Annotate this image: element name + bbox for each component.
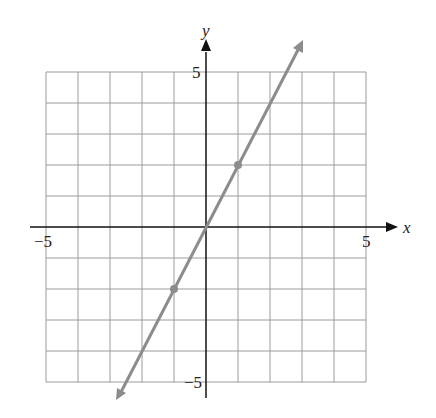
x-axis-arrow-icon [386,222,398,232]
point-neg1-neg2 [170,285,178,293]
graph-line [116,40,303,400]
coordinate-plane [0,0,436,418]
x-max-tick-label: 5 [362,233,371,250]
y-min-tick-label: −5 [184,374,202,391]
y-axis-arrow-icon [201,39,211,51]
x-axis-label: x [403,219,411,236]
x-min-tick-label: −5 [34,233,52,250]
y-max-tick-label: 5 [192,64,201,81]
y-axis-label: y [202,22,210,39]
axes [30,52,390,398]
point-1-2 [234,161,242,169]
